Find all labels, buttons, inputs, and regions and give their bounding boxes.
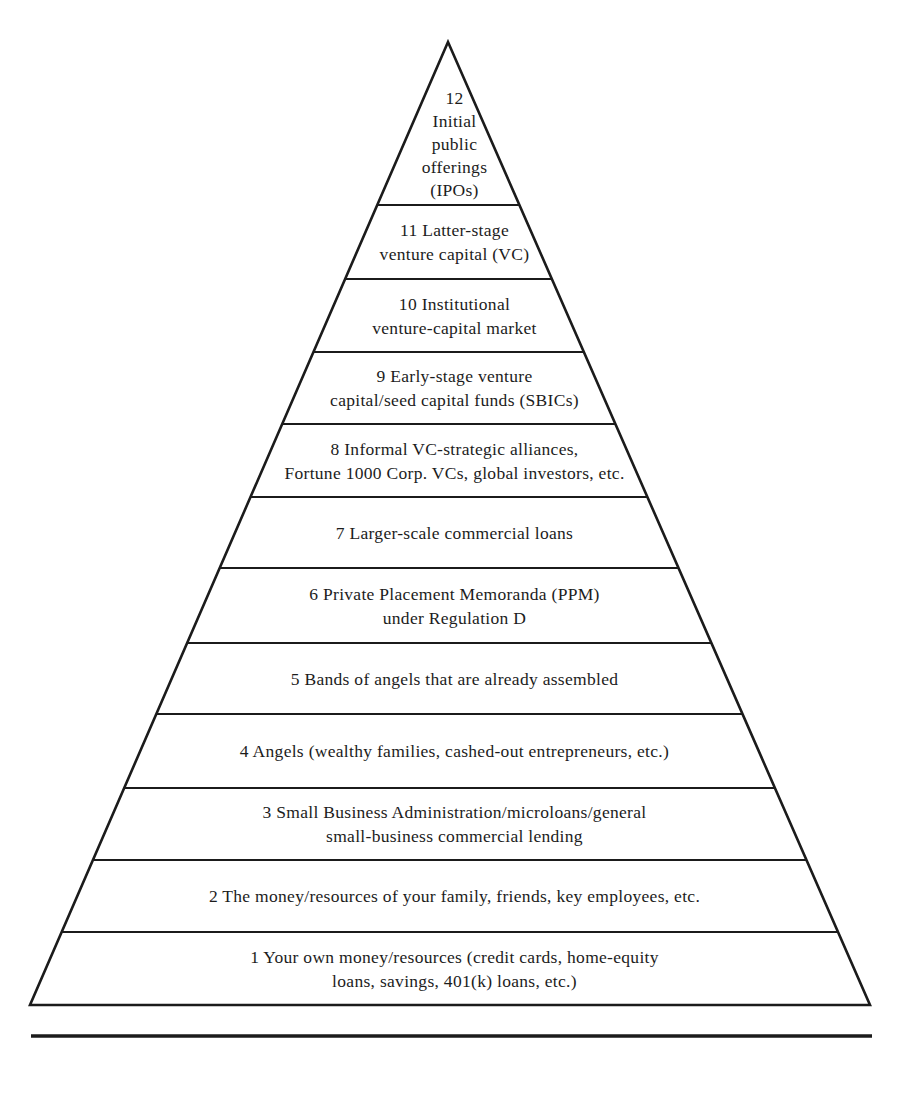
pyramid-level-label: 12 Initial public offerings (IPOs)	[422, 87, 488, 202]
pyramid-level-label: 10 Institutional venture-capital market	[372, 292, 537, 340]
pyramid-level-label: 3 Small Business Administration/microloa…	[263, 800, 647, 848]
pyramid-level-3: 3 Small Business Administration/microloa…	[0, 788, 909, 860]
pyramid-level-label: 9 Early-stage venture capital/seed capit…	[330, 364, 579, 412]
pyramid-level-label: 6 Private Placement Memoranda (PPM) unde…	[309, 582, 599, 630]
pyramid-level-1: 1 Your own money/resources (credit cards…	[0, 932, 909, 1005]
pyramid-level-6: 6 Private Placement Memoranda (PPM) unde…	[0, 568, 909, 643]
pyramid-level-label: 2 The money/resources of your family, fr…	[209, 884, 700, 908]
pyramid-level-10: 10 Institutional venture-capital market	[0, 279, 909, 352]
pyramid-level-label: 7 Larger-scale commercial loans	[336, 521, 573, 545]
pyramid-level-label: 8 Informal VC-strategic alliances, Fortu…	[284, 437, 624, 485]
pyramid-level-label: 5 Bands of angels that are already assem…	[291, 667, 619, 691]
pyramid-level-label: 11 Latter-stage venture capital (VC)	[380, 218, 530, 266]
pyramid-level-11: 11 Latter-stage venture capital (VC)	[0, 205, 909, 279]
funding-pyramid-figure: 12 Initial public offerings (IPOs) 11 La…	[0, 0, 909, 1104]
pyramid-level-label: 4 Angels (wealthy families, cashed-out e…	[240, 739, 669, 763]
pyramid-level-label: 1 Your own money/resources (credit cards…	[250, 945, 659, 993]
pyramid-level-9: 9 Early-stage venture capital/seed capit…	[0, 352, 909, 424]
pyramid-level-5: 5 Bands of angels that are already assem…	[0, 643, 909, 714]
pyramid-level-4: 4 Angels (wealthy families, cashed-out e…	[0, 714, 909, 788]
pyramid-level-2: 2 The money/resources of your family, fr…	[0, 860, 909, 932]
pyramid-level-8: 8 Informal VC-strategic alliances, Fortu…	[0, 424, 909, 497]
pyramid-level-7: 7 Larger-scale commercial loans	[0, 497, 909, 568]
pyramid-level-12: 12 Initial public offerings (IPOs)	[0, 42, 909, 205]
